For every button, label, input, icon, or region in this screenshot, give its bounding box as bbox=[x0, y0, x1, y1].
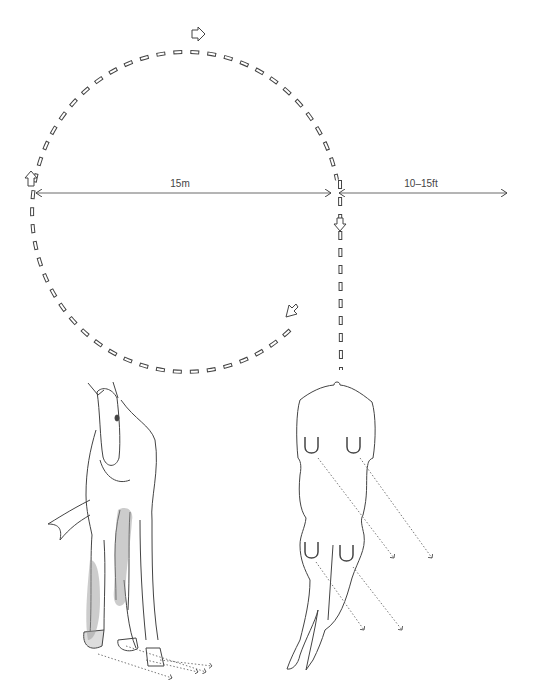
hoofprint-track-arrows bbox=[316, 458, 432, 630]
hoof-track-arrows bbox=[98, 646, 212, 678]
distance-label: 10–15ft bbox=[404, 178, 437, 189]
circle-path bbox=[32, 52, 337, 372]
stipple-shading bbox=[86, 508, 132, 640]
horseshoe-icon bbox=[305, 437, 360, 561]
lunge-diagram bbox=[0, 0, 537, 700]
straight-exit-path bbox=[340, 180, 341, 370]
direction-arrow-icon bbox=[25, 27, 346, 317]
horse-front-view-illustration bbox=[48, 382, 164, 666]
horse-overhead-illustration bbox=[287, 382, 375, 670]
diameter-label: 15m bbox=[170, 178, 189, 189]
